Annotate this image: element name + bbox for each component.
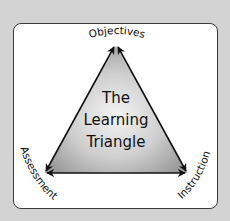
- vertex-label-objectives: Objectives: [87, 24, 147, 40]
- vertex-label-instruction: Instruction: [175, 149, 212, 201]
- title-line-2: Learning: [83, 111, 148, 129]
- triangle-fill: [45, 46, 187, 173]
- learning-triangle-diagram: Objectives Assessment Instruction The Le…: [0, 0, 230, 221]
- title-line-3: Triangle: [86, 133, 146, 151]
- title-line-1: The: [101, 89, 130, 107]
